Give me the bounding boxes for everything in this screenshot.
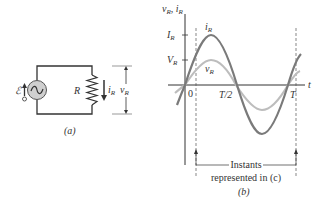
time-label-half: T/2: [219, 89, 232, 100]
waveform-graph: vR, iR IR VR t iR vR 0 T/2 T Instants re…: [162, 3, 311, 198]
tick-label-VR: VR: [167, 54, 178, 67]
resistor-icon: [87, 75, 97, 105]
y-axis-label: vR, iR: [162, 3, 184, 16]
current-label: iR: [108, 84, 116, 97]
ac-source-icon: [28, 81, 47, 100]
tick-label-IR: IR: [166, 29, 175, 42]
annotation-line1: Instants: [230, 159, 261, 170]
figure-canvas: ℰ R iR vR (a): [0, 0, 325, 199]
wire-top: [37, 66, 92, 80]
voltage-label: vR: [120, 84, 129, 97]
circuit-diagram: ℰ R iR vR (a): [15, 66, 132, 137]
current-arrow-icon: [101, 80, 107, 101]
annotation-line2: represented in (c): [211, 172, 281, 184]
time-label-0: 0: [188, 88, 193, 99]
current-curve-label: iR: [205, 21, 213, 34]
voltage-curve-label: vR: [205, 63, 214, 76]
wire-bottom: [37, 100, 92, 114]
resistor-label: R: [73, 85, 80, 96]
caption-b: (b): [238, 186, 250, 198]
x-axis-label: t: [308, 79, 311, 90]
caption-a: (a): [64, 125, 76, 137]
emf-label: ℰ: [15, 85, 22, 96]
emf-arrow-icon: [22, 83, 27, 101]
